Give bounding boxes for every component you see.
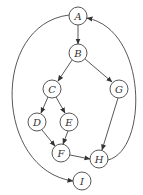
node-b: B [69,44,87,62]
edge-c-d [41,97,48,113]
node-label: H [94,154,104,165]
node-label: B [73,48,81,59]
node-label: A [73,11,81,22]
node-i: I [73,172,91,190]
edge-b-c [58,60,72,81]
node-a: A [69,7,87,25]
edge-b-g [85,59,112,82]
node-g: G [110,80,128,98]
node-label: C [48,84,56,95]
node-c: C [43,80,61,98]
node-label: E [64,117,73,128]
graph-diagram: A B C G D E F H I [0,0,143,195]
edge-f-h [70,155,90,159]
node-label: G [115,84,123,95]
edge-e-f [63,131,68,144]
node-f: F [52,144,70,162]
node-e: E [60,113,78,131]
node-d: D [28,113,46,131]
node-label: F [57,148,66,159]
edge-g-h [102,98,118,150]
edge-c-e [56,97,65,113]
node-label: D [32,117,41,128]
node-h: H [90,150,108,168]
edge-d-f [42,130,55,146]
